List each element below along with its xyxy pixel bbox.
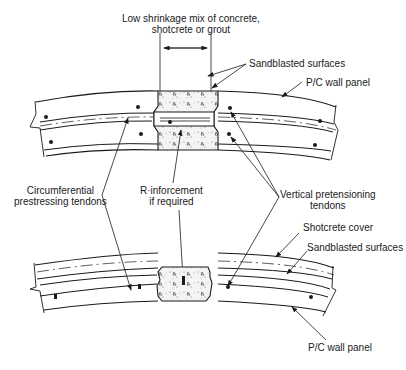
sandblasted-surfaces-bottom-label: Sandblasted surfaces (307, 242, 403, 253)
vertical-tendons-label: Vertical pretensioning tendons (280, 189, 376, 211)
joint-mix-label-line1: Low shrinkage mix of concrete, (122, 13, 260, 24)
diagram-canvas: Low shrinkage mix of concrete, shotcrete… (0, 0, 406, 370)
joint-mix-label: Low shrinkage mix of concrete, shotcrete… (122, 13, 260, 35)
circumferential-tendons-label-line2: prestressing tendons (14, 196, 107, 207)
reinforcement-label: R·inforcement if required (140, 185, 203, 207)
sandblasted-surfaces-top-label: Sandblasted surfaces (249, 58, 345, 69)
reinforcement-label-line1: R·inforcement (140, 185, 203, 196)
bottom-assembly (30, 233, 336, 340)
wall-panel-bottom-label: P/C wall panel (308, 342, 372, 353)
circumferential-tendons-label-line1: Circumferential (14, 185, 107, 196)
reinforcement-label-line2: if required (140, 196, 203, 207)
top-assembly (30, 33, 338, 160)
vertical-tendons-label-line1: Vertical pretensioning (280, 189, 376, 200)
vertical-tendons-label-line2: tendons (280, 200, 376, 211)
joint-mix-label-line2: shotcrete or grout (122, 24, 260, 35)
shotcrete-cover-label: Shotcrete cover (303, 222, 373, 233)
wall-panel-top-label: P/C wall panel (306, 77, 370, 88)
circumferential-tendons-label: Circumferential prestressing tendons (14, 185, 107, 207)
